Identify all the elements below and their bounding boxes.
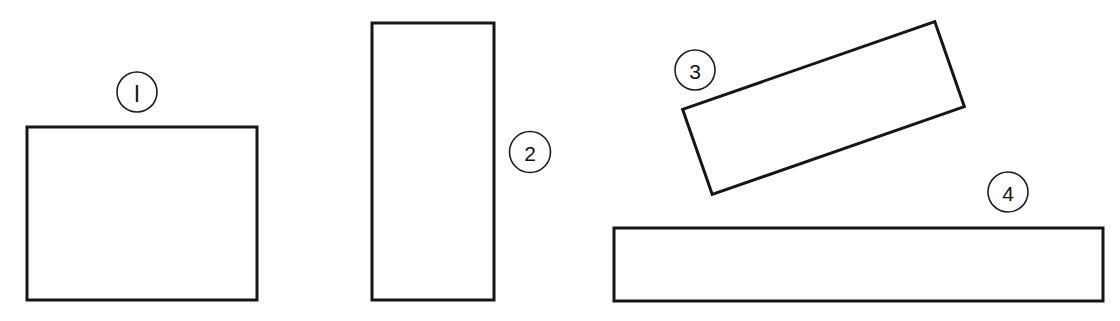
callout-label-4: 4 <box>1002 182 1014 205</box>
rectangle-1[interactable] <box>27 127 257 300</box>
figure-canvas: l 2 3 4 <box>0 0 1120 321</box>
callout-marker-3[interactable]: 3 <box>675 50 715 90</box>
callout-marker-2[interactable]: 2 <box>510 132 551 173</box>
rectangle-2[interactable] <box>372 23 494 300</box>
callout-marker-4[interactable]: 4 <box>988 172 1028 212</box>
callout-label-3: 3 <box>689 60 701 83</box>
callout-label-2: 2 <box>524 142 536 165</box>
callout-marker-1[interactable]: l <box>117 72 157 112</box>
figure-svg: l 2 3 4 <box>0 0 1120 321</box>
rectangle-4[interactable] <box>614 228 1103 301</box>
callout-label-1: l <box>134 80 139 107</box>
rectangle-3[interactable] <box>683 22 965 195</box>
